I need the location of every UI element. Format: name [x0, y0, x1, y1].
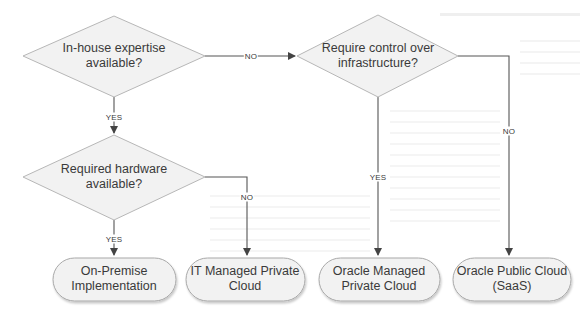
- outcome-t3-line2: Private Cloud: [333, 279, 425, 294]
- outcome-t2-line2: Cloud: [191, 279, 300, 294]
- outcome-t3-line1: Oracle Managed: [333, 264, 425, 279]
- decision-d1-line2: available?: [63, 56, 166, 71]
- edge-label-d3-no: NO: [240, 193, 254, 202]
- outcome-t1-label: On-Premise Implementation: [71, 264, 156, 294]
- edge-label-d3-yes: YES: [105, 235, 124, 244]
- decision-d2-label: Require control over infrastructure?: [322, 41, 435, 71]
- decision-d1-line1: In-house expertise: [63, 41, 166, 56]
- decision-d1-label: In-house expertise available?: [63, 41, 166, 71]
- outcome-t2-label: IT Managed Private Cloud: [191, 264, 300, 294]
- connector-d2-no-t4: [458, 56, 509, 255]
- edge-label-d2-no: NO: [502, 127, 516, 136]
- outcome-t4-line1: Oracle Public Cloud: [457, 264, 567, 279]
- outcome-t3-label: Oracle Managed Private Cloud: [333, 264, 425, 294]
- edge-label-d1-yes: YES: [105, 113, 124, 122]
- edge-label-d1-no: NO: [244, 52, 258, 61]
- decision-d3-line2: available?: [61, 177, 167, 192]
- outcome-t4-label: Oracle Public Cloud (SaaS): [457, 264, 567, 294]
- decision-d2-line1: Require control over: [322, 41, 435, 56]
- flowchart-canvas: In-house expertise available? Require co…: [0, 0, 587, 317]
- outcome-t1-line2: Implementation: [71, 279, 156, 294]
- decision-d3-line1: Required hardware: [61, 162, 167, 177]
- decision-d2-line2: infrastructure?: [322, 56, 435, 71]
- edge-label-d2-yes: YES: [369, 173, 388, 182]
- outcome-t2-line1: IT Managed Private: [191, 264, 300, 279]
- connector-d3-no-t2: [205, 177, 247, 255]
- decision-d3-label: Required hardware available?: [61, 162, 167, 192]
- outcome-t1-line1: On-Premise: [71, 264, 156, 279]
- outcome-t4-line2: (SaaS): [457, 279, 567, 294]
